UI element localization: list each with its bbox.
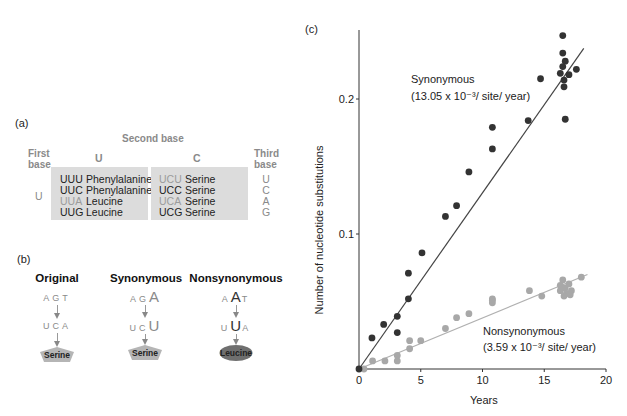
synonymous-rate: (13.05 x 10⁻³/ site/ year) [411, 90, 530, 103]
nonsynonymous-point [567, 291, 574, 298]
synonymous-point [557, 70, 564, 77]
x-tick-label: 10 [476, 374, 488, 386]
synonymous-point [525, 117, 532, 124]
x-tick-label: 20 [600, 374, 612, 386]
y-axis-label: Number of nucleotide substitutions [309, 130, 329, 330]
synonymous-point [562, 116, 569, 123]
nonsynonymous-point [442, 325, 449, 332]
synonymous-point [489, 124, 496, 131]
x-tick-label: 15 [538, 374, 550, 386]
nonsynonymous-point [466, 310, 473, 317]
synonymous-point [559, 32, 566, 39]
nonsynonymous-rate: (3.59 x 10⁻³/ site/ year) [483, 341, 596, 354]
nonsynonymous-point [578, 274, 585, 281]
nonsynonymous-point [369, 358, 376, 365]
nonsynonymous-point [406, 345, 413, 352]
y-tick-label: 0.1 [339, 228, 354, 240]
synonymous-point [466, 169, 473, 176]
synonymous-point [561, 83, 568, 90]
synonymous-point [419, 250, 426, 257]
synonymous-point [453, 202, 460, 209]
synonymous-point [369, 335, 376, 342]
nonsynonymous-point [566, 281, 573, 288]
synonymous-point [566, 71, 573, 78]
synonymous-point [394, 313, 401, 320]
synonymous-point [537, 75, 544, 82]
nonsynonymous-annotation: Nonsynonymous [483, 325, 565, 337]
x-tick-label: 5 [418, 374, 424, 386]
synonymous-annotation: Synonymous [411, 73, 475, 85]
synonymous-point [405, 270, 412, 277]
synonymous-point [489, 146, 496, 153]
nonsynonymous-point [406, 337, 413, 344]
synonymous-point [394, 329, 401, 336]
nonsynonymous-point [559, 277, 566, 284]
x-axis-title: Years [470, 394, 498, 406]
nonsynonymous-point [526, 287, 533, 294]
synonymous-point [573, 66, 580, 73]
nonsynonymous-point [417, 337, 424, 344]
synonymous-point [442, 213, 449, 220]
nonsynonymous-fit-line [359, 275, 587, 370]
synonymous-point [559, 50, 566, 57]
nonsynonymous-point [561, 293, 568, 300]
nonsynonymous-point [538, 293, 545, 300]
y-axis-title: Number of nucleotide substitutions [313, 146, 325, 315]
nonsynonymous-point [394, 352, 401, 359]
synonymous-point [561, 77, 568, 84]
chart-axes: 05101520 0.10.2 [339, 30, 612, 386]
synonymous-point [356, 366, 363, 373]
synonymous-point [559, 63, 566, 70]
x-tick-label: 0 [356, 374, 362, 386]
nonsynonymous-point [489, 295, 496, 302]
synonymous-point [380, 321, 387, 328]
nonsynonymous-point [453, 314, 460, 321]
nonsynonymous-point [382, 358, 389, 365]
y-tick-label: 0.2 [339, 93, 354, 105]
synonymous-point [405, 295, 412, 302]
